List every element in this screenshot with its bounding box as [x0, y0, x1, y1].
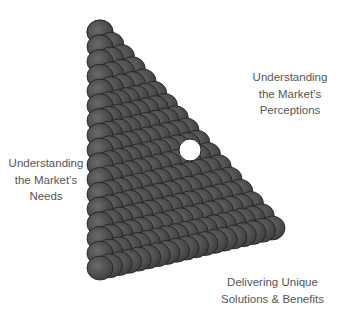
label-line: Perceptions: [240, 102, 339, 119]
label-line: the Market’s: [240, 86, 339, 103]
label-line: the Market’s: [0, 172, 92, 189]
label-line: Understanding: [0, 155, 92, 172]
center-hole: [179, 139, 201, 161]
label-market-perceptions: Understanding the Market’s Perceptions: [240, 69, 339, 119]
label-line: Understanding: [240, 69, 339, 86]
label-line: Needs: [0, 188, 92, 205]
label-line: Solutions & Benefits: [210, 291, 335, 308]
label-market-needs: Understanding the Market’s Needs: [0, 155, 92, 205]
label-line: Delivering Unique: [210, 274, 335, 291]
label-unique-solutions: Delivering Unique Solutions & Benefits: [210, 274, 335, 307]
